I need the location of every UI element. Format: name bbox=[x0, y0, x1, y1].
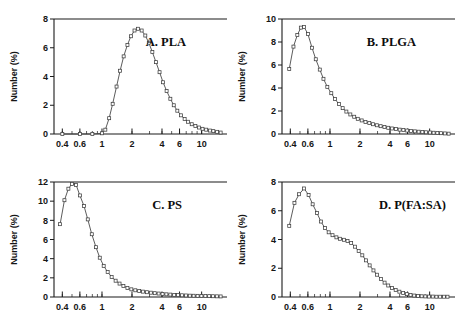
panel-b-title: B. PLGA bbox=[367, 35, 416, 49]
panel-b-data-marker bbox=[353, 115, 356, 118]
panel-a-data-marker bbox=[179, 114, 182, 117]
panel-c-data-marker bbox=[181, 294, 184, 297]
panel-c-title: C. PS bbox=[152, 198, 182, 212]
panel-b-y-axis-title: Number (%) bbox=[237, 51, 247, 102]
panel-c-data-marker bbox=[153, 292, 156, 295]
panel-b-y-ticklabel: 8 bbox=[271, 37, 276, 47]
panel-c-data-marker bbox=[98, 256, 101, 259]
panel-c-data-marker bbox=[204, 295, 207, 298]
panel-b-y-ticklabel: 10 bbox=[266, 14, 276, 24]
panel-a-data-marker bbox=[126, 43, 129, 46]
panel-a-data-marker bbox=[216, 130, 219, 133]
panel-a-data-marker bbox=[154, 61, 157, 64]
panel-d-x-ticklabel: 10 bbox=[425, 302, 435, 312]
panel-b-data-marker bbox=[387, 126, 390, 129]
panel-b-x-ticklabel: 0.6 bbox=[302, 139, 315, 149]
panel-a-x-ticklabel: 0.4 bbox=[56, 139, 69, 149]
panel-a-data-marker bbox=[169, 97, 172, 100]
panel-b-data-marker bbox=[421, 131, 424, 134]
panel-d-y-ticklabel: 8 bbox=[271, 177, 276, 187]
panel-b-data-marker bbox=[379, 125, 382, 128]
panel-b-data-marker bbox=[383, 126, 386, 129]
panel-a-title: A. PLA bbox=[146, 35, 186, 49]
panel-b-svg: 02468100.40.6124610Number (%)B. PLGA bbox=[228, 0, 455, 163]
panel-a-data-marker bbox=[194, 125, 197, 128]
panel-b-data-marker bbox=[299, 26, 302, 29]
panel-c-data-marker bbox=[188, 294, 191, 297]
panel-c-x-ticklabel: 4 bbox=[159, 302, 164, 312]
panel-b-x-ticklabel: 10 bbox=[425, 139, 435, 149]
chart-panel-c: 0246810120.40.6124610Number (%)C. PS bbox=[0, 163, 227, 326]
panel-c-data-marker bbox=[90, 233, 93, 236]
panel-d-data-marker bbox=[409, 293, 412, 296]
panel-b-y-ticklabel: 0 bbox=[271, 129, 276, 139]
panel-b-data-marker bbox=[333, 97, 336, 100]
panel-b-data-marker bbox=[345, 110, 348, 113]
panel-a-data-marker bbox=[111, 102, 114, 105]
panel-d-data-marker bbox=[311, 203, 314, 206]
panel-a-x-ticklabel: 2 bbox=[129, 139, 134, 149]
panel-b-data-marker bbox=[371, 123, 374, 126]
panel-c-data-marker bbox=[192, 294, 195, 297]
panel-d-data-marker bbox=[365, 259, 368, 262]
panel-b-x-ticklabel: 1 bbox=[327, 139, 332, 149]
panel-d-data-marker bbox=[293, 201, 296, 204]
chart-panel-d: 024680.40.6124610Number (%)D. P(FA:SA) bbox=[228, 163, 455, 326]
panel-b-data-marker bbox=[296, 34, 299, 37]
panel-d-data-marker bbox=[361, 254, 364, 257]
panel-b-x-ticklabel: 6 bbox=[405, 139, 410, 149]
panel-c-y-ticklabel: 10 bbox=[38, 196, 48, 206]
panel-d-data-marker bbox=[413, 294, 416, 297]
panel-a-data-marker bbox=[201, 127, 204, 130]
panel-c-data-marker bbox=[102, 264, 105, 267]
panel-a-data-curve bbox=[62, 29, 220, 134]
panel-a-data-marker bbox=[158, 71, 161, 74]
panel-b-data-marker bbox=[413, 130, 416, 133]
panel-d-y-ticklabel: 0 bbox=[271, 292, 276, 302]
panel-b-data-marker bbox=[360, 119, 363, 122]
panel-b-data-marker bbox=[306, 32, 309, 35]
panel-c-y-axis-title: Number (%) bbox=[9, 214, 19, 265]
panel-a-y-ticklabel: 8 bbox=[43, 14, 48, 24]
panel-c-data-marker bbox=[196, 294, 199, 297]
panel-d-data-marker bbox=[442, 295, 445, 298]
panel-a-data-marker bbox=[165, 89, 168, 92]
panel-d-data-marker bbox=[372, 269, 375, 272]
panel-d-data-marker bbox=[435, 295, 438, 298]
panel-a-data-marker bbox=[91, 133, 94, 136]
panel-a-data-marker bbox=[129, 35, 132, 38]
panel-d-y-ticklabel: 2 bbox=[271, 263, 276, 273]
panel-b-x-ticklabel: 2 bbox=[357, 139, 362, 149]
panel-a-data-marker bbox=[205, 128, 208, 131]
panel-b-data-marker bbox=[341, 107, 344, 110]
panel-c-data-marker bbox=[59, 223, 62, 226]
panel-c-data-marker bbox=[200, 294, 203, 297]
panel-d-data-marker bbox=[391, 287, 394, 290]
panel-d-x-ticklabel: 0.4 bbox=[284, 302, 297, 312]
panel-b-data-marker bbox=[410, 130, 413, 133]
panel-d-data-marker bbox=[346, 239, 349, 242]
panel-b-data-marker bbox=[349, 113, 352, 116]
panel-b-data-marker bbox=[326, 85, 329, 88]
panel-c-data-marker bbox=[177, 294, 180, 297]
panel-c-y-ticklabel: 8 bbox=[43, 216, 48, 226]
panel-a-data-marker bbox=[78, 133, 81, 136]
panel-a-x-ticklabel: 1 bbox=[99, 139, 104, 149]
panel-d-title: D. P(FA:SA) bbox=[379, 198, 446, 212]
panel-b-data-marker bbox=[440, 132, 443, 135]
panel-c-data-marker bbox=[130, 288, 133, 291]
panel-c-data-marker bbox=[83, 204, 86, 207]
panel-a-data-marker bbox=[190, 123, 193, 126]
panel-c-data-marker bbox=[149, 291, 152, 294]
panel-d-data-marker bbox=[323, 227, 326, 230]
panel-a-y-ticklabel: 4 bbox=[43, 72, 48, 82]
panel-c-data-marker bbox=[212, 295, 215, 298]
panel-d-data-marker bbox=[376, 273, 379, 276]
chart-panel-a: 024680.40.6124610Number (%)A. PLA bbox=[0, 0, 227, 163]
panel-a-data-marker bbox=[183, 117, 186, 120]
panel-a-data-marker bbox=[187, 120, 190, 123]
panel-c-data-marker bbox=[63, 199, 66, 202]
panel-c-x-ticklabel: 6 bbox=[177, 302, 182, 312]
panel-b-data-marker bbox=[425, 131, 428, 134]
panel-b-y-ticklabel: 6 bbox=[271, 60, 276, 70]
